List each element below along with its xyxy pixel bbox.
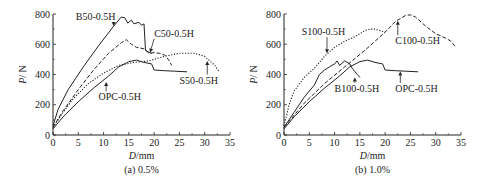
x-tick-label: 20 [380, 137, 390, 148]
x-tick-label: 5 [76, 137, 81, 148]
y-tick-label: 200 [35, 99, 50, 110]
arrowhead-icon [205, 61, 209, 65]
arrowhead-icon [149, 48, 153, 52]
x-tick-label: 30 [200, 137, 210, 148]
x-tick-label: 20 [149, 137, 159, 148]
series-annotation: S50-0.5H [179, 75, 218, 86]
x-tick-label: 25 [405, 137, 415, 148]
arrowhead-icon [104, 82, 108, 86]
series-B100-0.5H [284, 61, 360, 128]
x-tick-label: 10 [99, 137, 109, 148]
y-tick-label: 0 [276, 130, 281, 141]
x-tick-label: 0 [51, 137, 56, 148]
y-tick-label: 800 [35, 9, 50, 20]
y-tick-label: 600 [266, 39, 281, 50]
x-tick-label: 25 [174, 137, 184, 148]
series-C50-0.5H [53, 40, 172, 128]
arrowhead-icon [353, 78, 357, 82]
series-annotation: OPC-0.5H [99, 91, 142, 102]
y-tick-label: 600 [35, 39, 50, 50]
series-B50-0.5H [53, 17, 152, 126]
y-tick-label: 800 [266, 9, 281, 20]
series-annotation: C100-0.5H [395, 35, 440, 46]
y-tick-label: 0 [45, 130, 50, 141]
y-tick-label: 400 [266, 69, 281, 80]
chart-left-0.5-percent: 051015202530350200400600800P/ ND/mm(a) 0… [17, 9, 235, 177]
chart-right-1.0-percent: 051015202530350200400600800P/ ND/mm(b) 1… [248, 9, 466, 177]
series-annotation: OPC-0.5H [395, 83, 438, 94]
x-tick-label: 5 [307, 137, 312, 148]
arrowhead-icon [398, 71, 402, 75]
x-axis-label: D/mm [128, 150, 155, 161]
x-axis-label: D/mm [359, 150, 386, 161]
series-OPC-0.5H [284, 60, 418, 129]
x-tick-label: 35 [225, 137, 235, 148]
y-tick-label: 200 [266, 99, 281, 110]
y-axis-label: P/ N [248, 65, 259, 85]
x-tick-label: 35 [456, 137, 466, 148]
y-tick-label: 400 [35, 69, 50, 80]
series-annotation: S100-0.5H [302, 26, 346, 37]
arrowhead-icon [396, 21, 400, 25]
panel-caption: (a) 0.5% [124, 164, 158, 176]
x-tick-label: 15 [124, 137, 134, 148]
series-annotation: B100-0.5H [335, 83, 380, 94]
x-tick-label: 0 [282, 137, 287, 148]
x-tick-label: 30 [431, 137, 441, 148]
panel-caption: (b) 1.0% [355, 164, 390, 176]
annotation-arrow [151, 39, 154, 49]
x-tick-label: 15 [355, 137, 365, 148]
y-axis-label: P/ N [17, 65, 28, 85]
series-annotation: C50-0.5H [154, 28, 194, 39]
x-tick-label: 10 [330, 137, 340, 148]
series-annotation: B50-0.5H [76, 11, 116, 22]
figure: 051015202530350200400600800P/ ND/mm(a) 0… [0, 0, 478, 192]
